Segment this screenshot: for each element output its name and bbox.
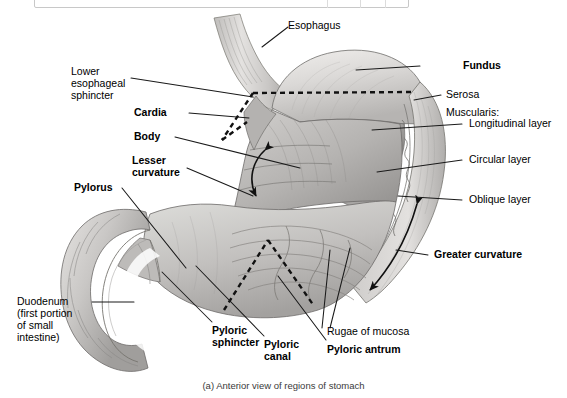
label-esophagus: Esophagus xyxy=(288,20,341,32)
figure-canvas: Esophagus Lower esophageal sphincter Car… xyxy=(0,0,567,398)
label-longitudinal-layer: Longitudinal layer xyxy=(469,118,551,130)
label-pyloric-canal-line1: Pyloric xyxy=(264,339,299,351)
label-duodenum-line2: (first portion xyxy=(17,308,72,320)
label-body: Body xyxy=(134,131,160,143)
label-cardia: Cardia xyxy=(134,107,167,119)
label-duodenum-line3: of small xyxy=(17,320,53,332)
label-duodenum-line4: intestine) xyxy=(17,332,60,344)
label-circular-layer: Circular layer xyxy=(469,154,531,166)
label-lower-esophageal-sphincter-line2: esophageal xyxy=(71,78,125,90)
label-pyloric-canal-line2: canal xyxy=(264,351,291,363)
figure-caption: (a) Anterior view of regions of stomach xyxy=(0,380,567,391)
label-oblique-layer: Oblique layer xyxy=(469,194,531,206)
label-duodenum-line1: Duodenum xyxy=(17,296,68,308)
label-lesser-curvature-line1: Lesser xyxy=(132,155,166,167)
label-lower-esophageal-sphincter-line1: Lower xyxy=(71,66,100,78)
label-pyloric-sphincter-line1: Pyloric xyxy=(212,325,247,337)
label-pyloric-sphincter-line2: sphincter xyxy=(212,337,259,349)
label-greater-curvature: Greater curvature xyxy=(434,249,522,261)
label-lower-esophageal-sphincter-line3: sphincter xyxy=(71,90,114,102)
label-pylorus: Pylorus xyxy=(74,182,113,194)
label-lesser-curvature-line2: curvature xyxy=(132,167,180,179)
label-fundus: Fundus xyxy=(463,60,501,72)
label-rugae-of-mucosa: Rugae of mucosa xyxy=(327,326,409,338)
label-serosa: Serosa xyxy=(446,89,479,101)
fundus-structure xyxy=(272,50,429,124)
label-pyloric-antrum: Pyloric antrum xyxy=(327,344,401,356)
pyloric-antrum xyxy=(143,201,396,318)
